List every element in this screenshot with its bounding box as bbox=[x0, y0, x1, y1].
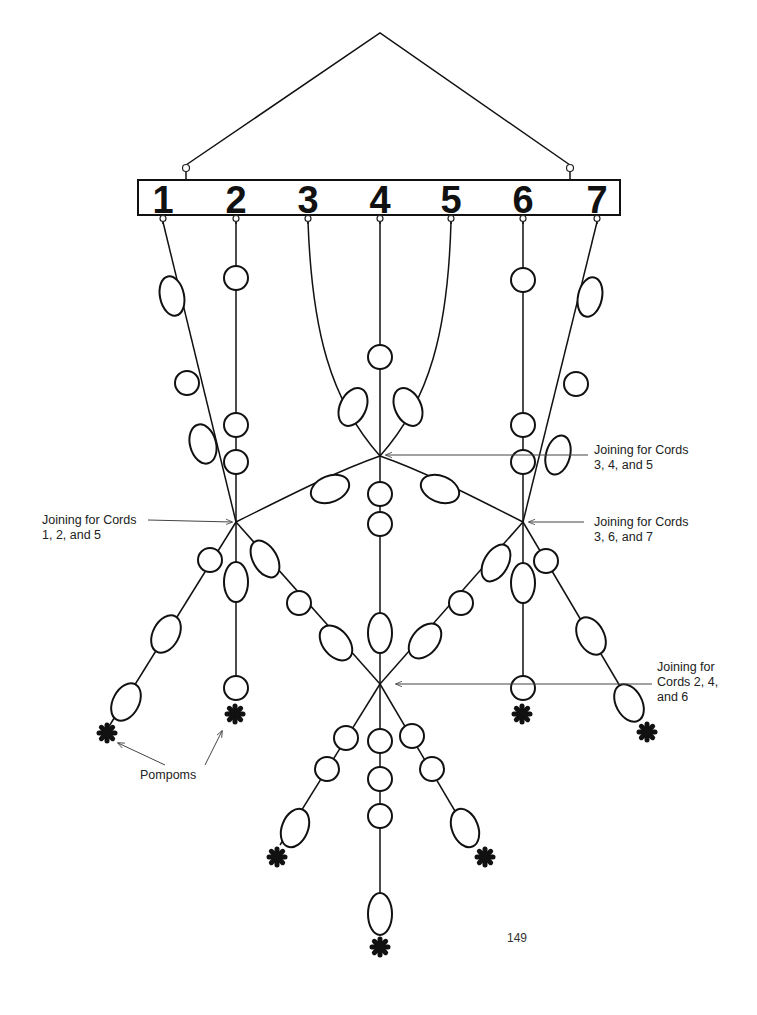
oval-bead-icon bbox=[417, 469, 464, 508]
page-number: 149 bbox=[507, 931, 527, 945]
oval-bead-icon bbox=[368, 613, 392, 653]
round-bead-icon bbox=[224, 266, 248, 290]
left-screw-eye-icon bbox=[183, 165, 190, 172]
pompom-icon bbox=[372, 939, 388, 955]
oval-bead-icon bbox=[275, 805, 314, 852]
cord-1 bbox=[163, 222, 236, 522]
oval-bead-icon bbox=[307, 469, 354, 508]
screw-eye-icon bbox=[233, 216, 239, 222]
callout-label: Joining for Cords bbox=[594, 515, 689, 529]
round-bead-icon bbox=[368, 767, 392, 791]
round-bead-icon bbox=[400, 724, 424, 748]
oval-bead-icon bbox=[445, 805, 484, 852]
round-bead-icon bbox=[315, 757, 339, 781]
joining-callout: Joining for Cords3, 4, and 5 bbox=[386, 443, 689, 472]
callout-label: and 6 bbox=[657, 690, 688, 704]
oval-bead-icon bbox=[185, 421, 220, 466]
callout-label: 3, 6, and 7 bbox=[594, 530, 653, 544]
cord-number-2: 2 bbox=[225, 179, 246, 221]
cord-number-5: 5 bbox=[440, 179, 461, 221]
round-bead-icon bbox=[368, 804, 392, 828]
screw-eye-icon bbox=[520, 216, 526, 222]
round-bead-icon bbox=[368, 729, 392, 753]
hanger-cord bbox=[183, 33, 574, 180]
callout-label: 3, 4, and 5 bbox=[594, 458, 653, 472]
oval-bead-icon bbox=[156, 274, 188, 318]
hanging-string bbox=[186, 33, 570, 165]
screw-eye-icon bbox=[377, 216, 383, 222]
round-bead-icon bbox=[334, 726, 358, 750]
pompom-icon bbox=[269, 849, 285, 865]
callout-label: 1, 2, and 5 bbox=[42, 528, 101, 542]
pompom-icon bbox=[639, 724, 655, 740]
oval-bead-icon bbox=[402, 617, 448, 664]
cord-number-1: 1 bbox=[152, 179, 173, 221]
callout-arrow-icon bbox=[148, 520, 232, 522]
round-bead-icon bbox=[511, 268, 535, 292]
cords-layer bbox=[108, 222, 640, 935]
round-bead-icon bbox=[511, 413, 535, 437]
pompom-icon bbox=[477, 849, 493, 865]
oval-bead-icon bbox=[145, 610, 187, 658]
callout-label: Joining for Cords bbox=[594, 443, 689, 457]
round-bead-icon bbox=[175, 371, 199, 395]
round-bead-icon bbox=[198, 548, 222, 572]
cord-number-4: 4 bbox=[369, 179, 390, 221]
round-bead-icon bbox=[287, 591, 311, 615]
screw-eye-icon bbox=[448, 216, 454, 222]
round-bead-icon bbox=[564, 372, 588, 396]
round-bead-icon bbox=[511, 676, 535, 700]
oval-bead-icon bbox=[313, 619, 359, 666]
oval-bead-icon bbox=[224, 562, 248, 602]
callout-label: Cords 2, 4, bbox=[657, 675, 718, 689]
oval-bead-icon bbox=[511, 563, 535, 603]
callout-label: Pompoms bbox=[140, 768, 196, 782]
callout-label: Joining for Cords bbox=[42, 513, 137, 527]
round-bead-icon bbox=[368, 512, 392, 536]
wall-hanging-diagram: 1234567 Joining for Cords1, 2, and 5Join… bbox=[0, 0, 757, 1015]
cord-7 bbox=[523, 222, 597, 522]
callout-arrow-icon bbox=[205, 731, 222, 765]
callout-label: Joining for bbox=[657, 660, 715, 674]
pompoms-callout: Pompoms bbox=[118, 731, 222, 782]
pompom-icon bbox=[99, 725, 115, 741]
j2-to-j1 bbox=[236, 456, 380, 522]
cord-number-7: 7 bbox=[586, 179, 607, 221]
oval-bead-icon bbox=[105, 678, 147, 726]
joining-callout: Joining for Cords3, 6, and 7 bbox=[529, 515, 689, 544]
joining-callout: Joining forCords 2, 4,and 6 bbox=[396, 660, 718, 704]
oval-bead-icon bbox=[574, 275, 606, 319]
oval-bead-icon bbox=[608, 679, 650, 727]
right-screw-eye-icon bbox=[567, 165, 574, 172]
pompom-icon bbox=[514, 706, 530, 722]
round-bead-icon bbox=[534, 549, 558, 573]
round-bead-icon bbox=[511, 450, 535, 474]
round-bead-icon bbox=[368, 345, 392, 369]
round-bead-icon bbox=[224, 450, 248, 474]
oval-bead-icon bbox=[570, 612, 612, 660]
cord-number-6: 6 bbox=[512, 179, 533, 221]
callout-arrow-icon bbox=[118, 743, 165, 765]
cord-number-3: 3 bbox=[297, 179, 318, 221]
oval-bead-icon bbox=[245, 536, 286, 583]
round-bead-icon bbox=[420, 757, 444, 781]
round-bead-icon bbox=[224, 676, 248, 700]
joining-callout: Joining for Cords1, 2, and 5 bbox=[42, 513, 232, 542]
screw-eye-icon bbox=[160, 216, 166, 222]
round-bead-icon bbox=[368, 482, 392, 506]
dowel-bar: 1234567 bbox=[138, 179, 620, 224]
oval-bead-icon bbox=[368, 893, 392, 935]
round-bead-icon bbox=[449, 591, 473, 615]
pompom-icon bbox=[227, 706, 243, 722]
screw-eye-icon bbox=[594, 216, 600, 222]
round-bead-icon bbox=[224, 413, 248, 437]
screw-eye-icon bbox=[305, 216, 311, 222]
